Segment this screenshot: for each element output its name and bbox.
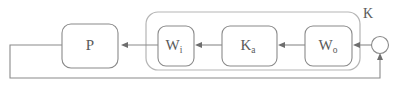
block-diagram-svg: P Wi Ka Wo K [0, 0, 409, 87]
block-wi-label-main: W [166, 37, 181, 53]
block-wi-label-sub: i [180, 45, 183, 55]
arrowhead-into-ka-icon [278, 42, 285, 48]
block-diagram-canvas: P Wi Ka Wo K [0, 0, 409, 87]
block-plant-label-main: P [86, 37, 94, 53]
summing-junction[interactable] [372, 37, 389, 54]
arrowhead-into-plant-icon [121, 42, 128, 48]
block-ka-label-main: K [240, 37, 251, 53]
arrowhead-into-wo-icon [353, 42, 360, 48]
controller-group-label: K [363, 6, 373, 21]
block-wo-label-sub: o [333, 45, 338, 55]
arrowhead-into-wi-icon [195, 42, 202, 48]
block-wo-label-main: W [319, 37, 334, 53]
block-plant-label: P [86, 37, 94, 53]
